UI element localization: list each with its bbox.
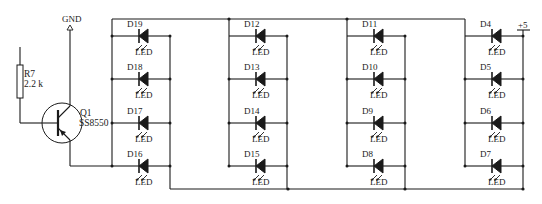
led-matrix-schematic: R7 2.2 k Q1 SS8550 GND +5 D19LEDD18LEDD1…: [0, 0, 542, 204]
led-type-label: LED: [370, 134, 388, 144]
led-ref-label: D15: [244, 149, 260, 159]
led-d5: D5LED: [464, 62, 525, 100]
led-d19: D19LED: [111, 19, 172, 57]
led-d13: D13LED: [228, 62, 289, 100]
resistor-ref-label: R7: [24, 69, 35, 79]
led-column-1: D19LEDD18LEDD17LEDD16LED: [111, 19, 172, 189]
led-d14: D14LED: [228, 106, 289, 144]
led-type-label: LED: [370, 47, 388, 57]
gnd-symbol: GND: [62, 14, 82, 30]
led-type-label: LED: [370, 177, 388, 187]
led-type-label: LED: [135, 134, 153, 144]
led-column-4: D4LEDD5LEDD6LEDD7LED: [464, 19, 525, 189]
led-d17: D17LED: [111, 106, 172, 144]
vcc-label: +5: [518, 20, 528, 30]
resistor-r7: R7 2.2 k: [17, 47, 43, 123]
vcc-symbol: +5: [517, 20, 530, 30]
led-d8: D8LED: [346, 149, 407, 187]
led-d10: D10LED: [346, 62, 407, 100]
led-type-label: LED: [488, 47, 506, 57]
transistor-part-label: SS8550: [79, 118, 109, 128]
led-columns: D19LEDD18LEDD17LEDD16LEDD12LEDD13LEDD14L…: [111, 19, 525, 189]
led-d4: D4LED: [465, 19, 525, 57]
led-ref-label: D17: [127, 106, 143, 116]
led-type-label: LED: [488, 134, 506, 144]
led-type-label: LED: [252, 177, 270, 187]
led-column-2: D12LEDD13LEDD14LEDD15LED: [228, 19, 289, 189]
led-ref-label: D7: [480, 149, 491, 159]
led-ref-label: D14: [244, 106, 260, 116]
led-type-label: LED: [252, 47, 270, 57]
led-type-label: LED: [135, 90, 153, 100]
led-type-label: LED: [252, 90, 270, 100]
transistor-ref-label: Q1: [80, 108, 92, 118]
led-ref-label: D6: [480, 106, 491, 116]
led-type-label: LED: [370, 90, 388, 100]
led-type-label: LED: [488, 90, 506, 100]
led-type-label: LED: [135, 47, 153, 57]
gnd-label: GND: [62, 14, 82, 24]
led-d18: D18LED: [111, 62, 172, 100]
led-ref-label: D5: [480, 62, 491, 72]
led-ref-label: D18: [127, 62, 143, 72]
led-ref-label: D8: [362, 149, 373, 159]
led-ref-label: D9: [362, 106, 373, 116]
led-d15: D15LED: [228, 149, 289, 187]
led-d16: D16LED: [111, 149, 172, 187]
led-type-label: LED: [135, 177, 153, 187]
led-ref-label: D19: [127, 19, 143, 29]
led-type-label: LED: [488, 177, 506, 187]
resistor-value-label: 2.2 k: [24, 79, 43, 89]
transistor-q1: Q1 SS8550: [42, 30, 112, 166]
led-ref-label: D4: [480, 19, 491, 29]
led-d11: D11LED: [347, 19, 407, 57]
led-d6: D6LED: [464, 106, 525, 144]
led-type-label: LED: [252, 134, 270, 144]
led-ref-label: D10: [362, 62, 378, 72]
led-ref-label: D16: [127, 149, 143, 159]
led-d7: D7LED: [464, 149, 525, 187]
led-column-3: D11LEDD10LEDD9LEDD8LED: [346, 19, 407, 189]
led-ref-label: D12: [244, 19, 260, 29]
led-ref-label: D13: [244, 62, 260, 72]
led-d12: D12LED: [229, 19, 289, 57]
led-d9: D9LED: [346, 106, 407, 144]
led-ref-label: D11: [362, 19, 377, 29]
